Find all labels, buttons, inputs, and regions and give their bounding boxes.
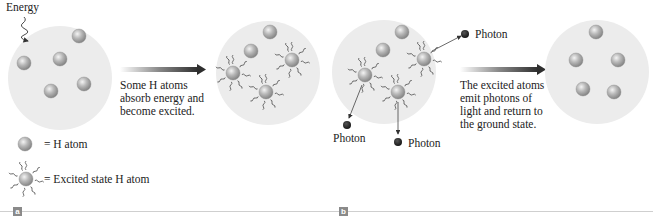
photon-icon [461, 30, 469, 38]
excited-state-circle-b [332, 20, 442, 124]
photon-icon [343, 121, 351, 129]
caption-a-line: Some H atoms [120, 79, 204, 92]
excited-state-circle-a [216, 21, 320, 125]
caption-a-line: become excited. [120, 105, 204, 118]
ground-state-circle-a [8, 26, 112, 130]
panel-b-rule [300, 211, 653, 212]
caption-b-line: The excited atoms [460, 79, 544, 92]
caption-a: Some H atoms absorb energy and become ex… [120, 79, 204, 118]
process-arrow-b [460, 67, 538, 72]
caption-a-line: absorb energy and [120, 92, 204, 105]
panel-label-b: b [339, 207, 348, 216]
photon-label: Photon [475, 28, 508, 41]
photon-label: Photon [408, 137, 441, 150]
caption-b-line: the ground state. [460, 118, 544, 131]
caption-b-line: emit photons of [460, 92, 544, 105]
diagram-graphics [0, 0, 653, 219]
ground-state-circle-b [545, 20, 649, 124]
caption-b-line: light and return to [460, 105, 544, 118]
process-arrow-a [120, 67, 198, 72]
energy-arrow-icon [21, 17, 28, 41]
ground-atom-legend-icon [18, 137, 32, 151]
legend-excited-label: = Excited state H atom [44, 173, 149, 186]
photon-label: Photon [333, 132, 366, 145]
legend-ground-label: = H atom [44, 138, 88, 151]
panel-label-a: a [13, 207, 22, 216]
energy-label: Energy [6, 1, 39, 14]
caption-b: The excited atoms emit photons of light … [460, 79, 544, 131]
panel-a-rule [0, 211, 316, 212]
photon-icon [394, 138, 402, 146]
excited-atom-legend-icon [9, 161, 44, 197]
